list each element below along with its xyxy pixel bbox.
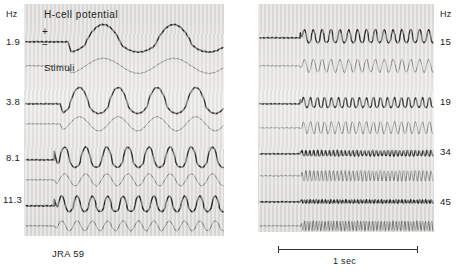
stimulus-trace-15hz [260, 59, 433, 73]
left-axis-unit: Hz [6, 9, 18, 19]
left-hz-label-2: 3.8 [6, 96, 20, 107]
figure-title: H-cell potential [44, 9, 118, 20]
trace-canvas-right [258, 4, 434, 232]
stimulus-trace-34hz [260, 170, 433, 181]
polarity-plus-mark: + [42, 28, 48, 36]
right-hz-label-4: 45 [440, 196, 451, 207]
recording-panel-left [24, 4, 224, 236]
scale-bar-tick-end [417, 246, 418, 253]
response-trace-1.9hz [26, 24, 223, 52]
response-trace-45hz [260, 200, 433, 204]
right-hz-label-3: 34 [440, 146, 451, 157]
trace-canvas-left [24, 4, 224, 236]
stimulus-trace-45hz [260, 221, 433, 231]
polarity-minus-mark: − [42, 41, 48, 49]
response-trace-34hz [260, 150, 433, 156]
right-axis-unit: Hz [440, 9, 452, 19]
time-scale-bar [278, 246, 418, 253]
response-trace-3.8hz [26, 87, 223, 114]
figure-root: Hz 1.9 3.8 8.1 11.3 Hz 15 19 34 45 H-cel… [0, 0, 464, 272]
response-trace-11.3hz [26, 196, 223, 212]
left-hz-label-1: 1.9 [6, 36, 20, 47]
recording-panel-right [258, 4, 434, 232]
scale-bar-rule [278, 249, 418, 250]
right-hz-label-1: 15 [440, 36, 451, 47]
right-hz-label-2: 19 [440, 96, 451, 107]
stimuli-label: Stimuli [44, 62, 75, 73]
left-hz-label-4: 11.3 [3, 194, 22, 205]
response-trace-8.1hz [26, 147, 223, 168]
stimulus-trace-19hz [260, 122, 433, 135]
scale-bar-tick-start [278, 246, 279, 253]
response-trace-15hz [260, 29, 433, 43]
stimulus-trace-3.8hz [26, 117, 223, 132]
scale-bar-label: 1 sec [333, 256, 356, 266]
left-hz-label-3: 8.1 [6, 152, 20, 163]
stimulus-trace-11.3hz [26, 221, 223, 232]
specimen-label: JRA 59 [52, 248, 84, 259]
response-trace-19hz [260, 97, 433, 107]
stimulus-trace-8.1hz [26, 174, 223, 187]
